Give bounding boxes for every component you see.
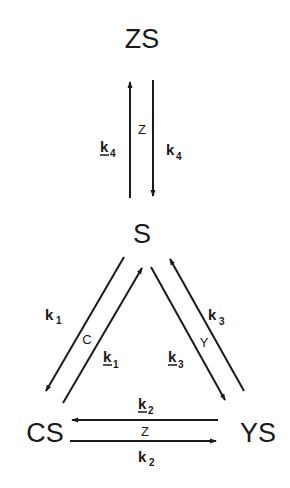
svg-text:1: 1 — [113, 359, 119, 370]
node-s: S — [133, 219, 151, 249]
label-k-minus-3: k 3 — [168, 348, 184, 370]
svg-text:4: 4 — [176, 151, 182, 162]
label-k-3: k 3 — [208, 306, 225, 327]
label-k-4: k 4 — [166, 141, 182, 162]
node-cs: CS — [26, 418, 64, 448]
svg-text:k: k — [166, 141, 175, 158]
arrow-cs-to-s — [63, 268, 142, 403]
label-k-1: k 1 — [45, 306, 62, 326]
label-k-minus-2: k 2 — [138, 395, 154, 416]
svg-text:4: 4 — [110, 148, 116, 159]
svg-text:2: 2 — [149, 457, 155, 468]
arrow-s-to-ys — [151, 267, 225, 400]
mediator-z-bottom: Z — [141, 424, 149, 439]
label-k-minus-1: k 1 — [103, 348, 119, 370]
svg-text:k: k — [168, 348, 177, 365]
mediator-c: C — [82, 332, 91, 347]
svg-text:1: 1 — [56, 315, 62, 326]
svg-text:3: 3 — [219, 316, 225, 327]
label-k-minus-4: k 4 — [100, 138, 116, 159]
svg-text:k: k — [100, 138, 109, 155]
mediator-z-top: Z — [138, 122, 146, 137]
arrow-ys-to-s — [170, 259, 244, 391]
svg-text:2: 2 — [148, 405, 154, 416]
node-ys: YS — [240, 418, 276, 448]
svg-text:k: k — [138, 395, 147, 412]
svg-text:k: k — [208, 306, 217, 323]
svg-text:k: k — [103, 348, 112, 365]
svg-text:k: k — [45, 306, 54, 323]
node-zs: ZS — [125, 24, 160, 54]
mediator-y: Y — [200, 335, 209, 350]
svg-text:k: k — [138, 448, 147, 465]
label-k-2: k 2 — [138, 448, 155, 468]
svg-text:3: 3 — [178, 359, 184, 370]
reaction-scheme-diagram: ZS S CS YS Z k 4 k 4 C k 1 k 1 Y k 3 k 3… — [0, 0, 290, 488]
